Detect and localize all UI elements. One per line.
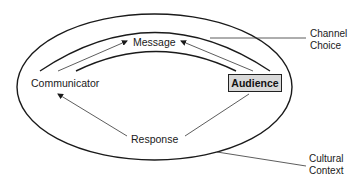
communicator-label: Communicator bbox=[31, 77, 99, 89]
channel-choice-line-2: Choice bbox=[310, 40, 347, 52]
communication-model-diagram bbox=[0, 0, 362, 185]
cultural-context-leader bbox=[217, 152, 306, 166]
channel-inner-arc bbox=[76, 52, 236, 72]
arrow-response-to-communicator bbox=[58, 94, 127, 136]
channel-choice-label: Channel Choice bbox=[310, 28, 347, 52]
message-label: Message bbox=[133, 36, 176, 48]
cultural-context-label: Cultural Context bbox=[309, 153, 343, 177]
cultural-context-line-1: Cultural bbox=[309, 153, 343, 165]
channel-choice-line-1: Channel bbox=[310, 28, 347, 40]
audience-box: Audience bbox=[228, 74, 282, 92]
response-label: Response bbox=[131, 133, 178, 145]
line-audience-to-response bbox=[185, 94, 249, 136]
cultural-context-line-2: Context bbox=[309, 165, 343, 177]
